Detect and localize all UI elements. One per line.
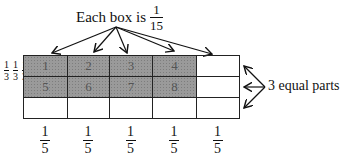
grid-cell: [24, 98, 68, 119]
grid-cell: 4: [153, 56, 197, 77]
row-fraction: 13: [13, 60, 18, 81]
side-label: 3 equal parts: [268, 78, 340, 94]
grid-cell: 8: [153, 77, 197, 98]
grid-cell: [197, 56, 240, 77]
grid-cell: [197, 77, 240, 98]
column-fraction: 15: [23, 125, 67, 156]
grid-cell: 7: [110, 77, 153, 98]
grid-cell: [153, 98, 197, 119]
grid-cell: 3: [110, 56, 153, 77]
grid-cell: 1: [24, 56, 68, 77]
grid-cell: [110, 98, 153, 119]
column-fraction: 15: [109, 125, 152, 156]
row-fraction: 13: [4, 60, 9, 81]
grid-cell: [197, 98, 240, 119]
grid-cell: 5: [24, 77, 68, 98]
fraction-grid: 1 2 3 4 5 6 7 8: [23, 55, 240, 119]
column-fractions: 15 15 15 15 15: [23, 125, 240, 156]
column-fraction: 15: [67, 125, 109, 156]
grid-cell: 2: [68, 56, 110, 77]
column-fraction: 15: [152, 125, 196, 156]
grid-cell: 6: [68, 77, 110, 98]
grid-cell: [68, 98, 110, 119]
column-fraction: 15: [196, 125, 239, 156]
